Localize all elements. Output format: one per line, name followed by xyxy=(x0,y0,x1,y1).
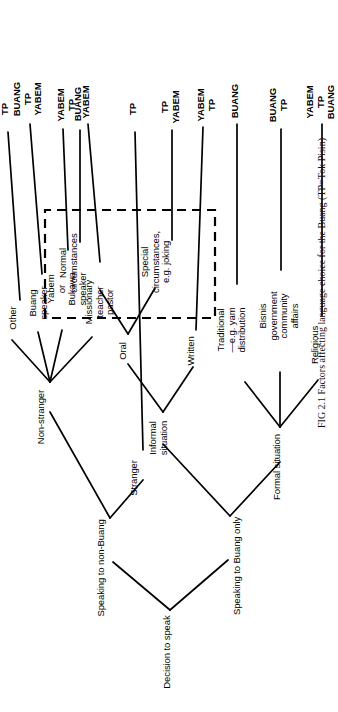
edge-root-to-non-buang xyxy=(113,562,170,610)
leaf-other-outcome: TP xyxy=(0,86,11,132)
node-speaking-to-buang-only: Speaking to Buang only xyxy=(232,508,243,624)
leaf-traditional-outcome: BUANG xyxy=(230,74,241,128)
node-speaking-to-non-buang: Speaking to non-Buang xyxy=(96,512,107,624)
figure-caption: FIG 2.1 Factors affecting language choic… xyxy=(316,138,328,428)
edge-other-to-tp xyxy=(8,132,20,300)
leaf-written-outcome: YABEM TP xyxy=(196,80,217,130)
node-informal-situation: Informal situation xyxy=(148,410,169,466)
edge-buangspeaker-to-buangtpyabem xyxy=(30,124,42,274)
node-stranger: Stranger xyxy=(129,450,140,506)
figure-container: Decision to speak Speaking to non-Buang … xyxy=(0,0,338,712)
node-buang-speaker: Buang speaker xyxy=(28,272,49,334)
node-normal-circumstances: Normal circumstances xyxy=(58,220,79,306)
edge-root-to-buang-only xyxy=(170,560,228,610)
edge-missionary-to-yabem xyxy=(88,124,100,262)
node-traditional-yam-distribution: Traditional —e.g. yam distribution xyxy=(216,282,248,378)
node-missionary-teacher-pastor: Missionary teacher pastor xyxy=(84,260,116,344)
node-non-stranger: Non-stranger xyxy=(36,380,47,454)
edge-formal-to-religious xyxy=(280,380,318,427)
edge-written-to-yabemtp xyxy=(196,127,203,330)
node-bisnis-government-community-affairs: Bisnis government community affairs xyxy=(258,268,300,364)
node-special-circumstances: Special circumstances, e.g. joking xyxy=(140,216,172,308)
leaf-bisnis-outcome: BUANG TP xyxy=(268,78,289,132)
edge-nonbuang-to-nonstranger xyxy=(50,412,110,518)
leaf-special-circumstances-outcome: TP YABEM xyxy=(160,82,181,132)
node-other: Other xyxy=(8,298,19,338)
node-written: Written xyxy=(186,328,197,374)
leaf-buang-speaker-outcome: BUANG TP YABEM xyxy=(12,71,44,127)
leaf-stranger-outcome: TP xyxy=(128,86,139,132)
node-oral: Oral xyxy=(118,334,129,368)
edge-nonstranger-to-yabem-bukawa xyxy=(50,330,62,382)
leaf-religious-outcome: YABEM TP BUANG xyxy=(305,74,337,130)
edge-buangonly-to-informal xyxy=(163,444,230,516)
node-decision-to-speak: Decision to speak xyxy=(162,610,173,694)
tree-diagram-canvas: Decision to speak Speaking to non-Buang … xyxy=(0,0,338,712)
edge-informal-to-oral xyxy=(128,364,163,412)
node-formal-situation: Formal situation xyxy=(272,424,283,510)
edge-formal-to-traditional xyxy=(245,382,280,427)
leaf-missionary-outcome: YABEM xyxy=(81,76,92,128)
